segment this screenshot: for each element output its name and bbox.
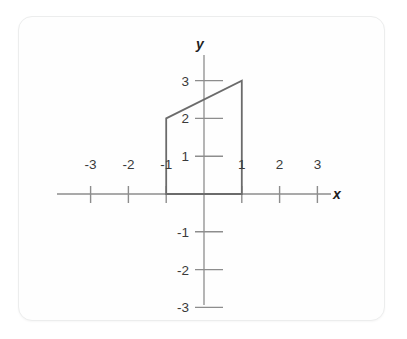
x-tick-label-3: 3 <box>314 157 322 172</box>
coordinate-plane-svg: -3 -2 -1 1 2 3 3 2 1 -1 -2 -3 <box>19 17 385 321</box>
y-tick-label-3: 3 <box>181 74 189 89</box>
x-axis-label: x <box>332 186 342 202</box>
y-tick-label--1: -1 <box>177 225 189 240</box>
x-tick-label--1: -1 <box>160 157 172 172</box>
y-tick-label-2: 2 <box>181 111 189 126</box>
x-tick-labels-group: -3 -2 -1 1 2 3 <box>85 157 322 172</box>
y-tick-label--2: -2 <box>177 263 189 278</box>
x-tick-label--2: -2 <box>122 157 134 172</box>
figure-card: -3 -2 -1 1 2 3 3 2 1 -1 -2 -3 <box>18 16 385 321</box>
coordinate-plane-plot: -3 -2 -1 1 2 3 3 2 1 -1 -2 -3 <box>19 17 385 321</box>
axes-group <box>57 55 331 305</box>
x-tick-label-2: 2 <box>276 157 284 172</box>
screenshot-root: -3 -2 -1 1 2 3 3 2 1 -1 -2 -3 <box>0 0 407 339</box>
y-axis-label: y <box>195 36 205 52</box>
y-tick-label--3: -3 <box>177 300 189 315</box>
y-tick-label-1: 1 <box>181 149 189 164</box>
x-tick-label--3: -3 <box>85 157 97 172</box>
x-tick-label-1: 1 <box>238 157 246 172</box>
